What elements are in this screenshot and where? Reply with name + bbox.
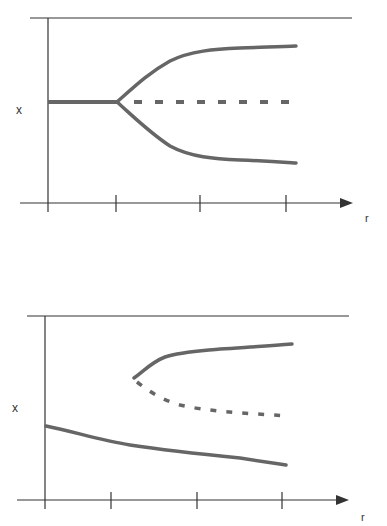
r-axis-label: r [361, 511, 365, 523]
lower-stable-branch [117, 102, 296, 163]
pitchfork-plot [0, 0, 387, 263]
x-axis-label: x [16, 103, 22, 117]
unstable-branch [137, 382, 290, 416]
upper-stable-branch [117, 46, 296, 102]
imperfect-bifurcation-plot [0, 263, 387, 526]
upper-stable-branch [134, 344, 292, 378]
pitchfork-diagram: x r [0, 0, 387, 263]
x-axis-arrow-icon [336, 495, 349, 505]
x-axis-label: x [12, 401, 18, 415]
r-axis-label: r [365, 212, 369, 224]
lower-stable-branch [46, 426, 286, 465]
imperfect-bifurcation-diagram: x r [0, 263, 387, 526]
x-axis-arrow-icon [340, 198, 353, 208]
